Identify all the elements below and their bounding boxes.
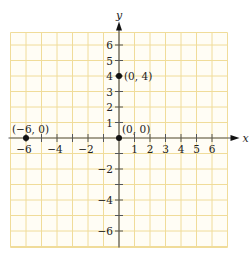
x-tick-label: −6 [16,143,32,155]
y-tick-label: 4 [106,70,113,82]
point-label: (0, 4) [124,70,152,82]
coordinate-plane: xy −6−4−2123456654321−2−4−6 (−6, 0)(0, 0… [0,0,252,262]
x-tick-label: 6 [209,143,216,155]
y-tick-label: −4 [98,194,114,206]
point-label: (0, 0) [122,123,150,135]
x-axis-arrow-icon [231,135,240,141]
y-tick-label: 1 [106,117,113,129]
x-axis-label: x [243,132,250,145]
point-label: (−6, 0) [12,123,49,135]
y-axis-label: y [115,9,123,22]
x-tick-label: 1 [131,143,138,155]
x-tick-label: 2 [147,143,154,155]
y-tick-label: 5 [106,55,113,67]
data-point [23,135,29,141]
y-tick-label: −6 [98,225,114,237]
data-point [116,73,122,79]
x-tick-label: −4 [47,143,63,155]
y-tick-label: 6 [106,39,113,51]
y-tick-label: −2 [98,163,113,175]
y-tick-label: 3 [106,86,113,98]
data-point [116,135,122,141]
y-tick-label: 2 [106,101,113,113]
x-tick-label: 3 [162,143,169,155]
y-axis-arrow-icon [116,22,122,31]
x-tick-label: −2 [78,143,93,155]
x-tick-label: 5 [193,143,200,155]
x-tick-label: 4 [178,143,185,155]
